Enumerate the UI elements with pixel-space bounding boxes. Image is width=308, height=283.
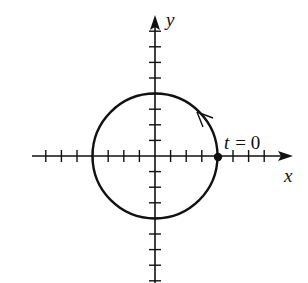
start-label: t = 0 bbox=[224, 133, 260, 153]
x-axis-label: x bbox=[284, 166, 292, 185]
diagram-svg bbox=[0, 0, 308, 283]
y-axis-label: y bbox=[166, 10, 174, 29]
start-label-var: t bbox=[224, 132, 229, 153]
start-label-eq: = 0 bbox=[235, 132, 260, 153]
start-point-dot bbox=[214, 153, 222, 161]
diagram-canvas: y x t = 0 bbox=[0, 0, 308, 283]
